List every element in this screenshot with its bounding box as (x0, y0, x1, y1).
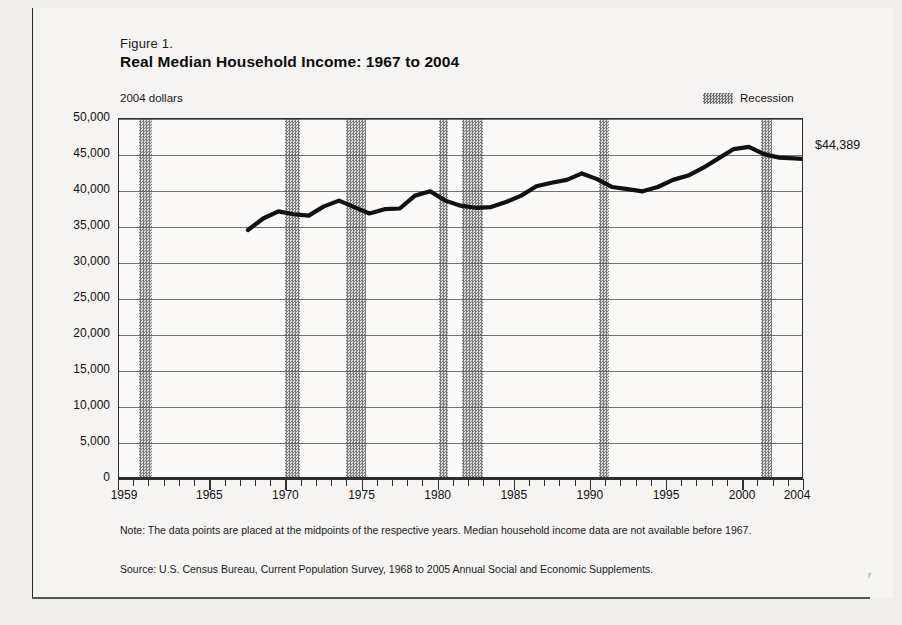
x-axis-tick-label: 1975 (348, 488, 375, 502)
y-axis-tick-label: 35,000 (48, 218, 110, 232)
x-axis-minor-tick (392, 479, 393, 486)
x-axis-tick-label: 1959 (111, 488, 138, 502)
x-axis-tick-label: 1990 (577, 488, 604, 502)
x-axis-minor-tick (559, 479, 560, 486)
y-axis-tick-label: 30,000 (48, 254, 110, 268)
x-axis-minor-tick (681, 479, 682, 486)
x-axis-minor-tick (148, 479, 149, 486)
x-axis-minor-tick (696, 479, 697, 486)
y-axis-units-label: 2004 dollars (120, 92, 183, 104)
figure-label: Figure 1. (120, 36, 173, 51)
y-axis-tick-label: 10,000 (48, 398, 110, 412)
y-axis-tick-label: 50,000 (48, 110, 110, 124)
x-axis-minor-tick (407, 479, 408, 486)
x-axis-minor-tick (377, 479, 378, 486)
x-axis-minor-tick (255, 479, 256, 486)
y-axis-tick-label: 15,000 (48, 362, 110, 376)
legend-swatch-recession (703, 93, 733, 104)
x-axis-minor-tick (331, 479, 332, 486)
x-axis-minor-tick (605, 479, 606, 486)
x-axis-minor-tick (133, 479, 134, 486)
x-axis-minor-tick (727, 479, 728, 486)
x-axis-minor-tick (346, 479, 347, 486)
y-axis-tick-label: 45,000 (48, 146, 110, 160)
figure-bottom-rule (32, 597, 870, 599)
x-axis-minor-tick (712, 479, 713, 486)
x-axis-tick-label: 1965 (196, 488, 223, 502)
x-axis-minor-tick (499, 479, 500, 486)
y-axis-tick-label: 0 (48, 470, 110, 484)
y-axis-tick-label: 25,000 (48, 290, 110, 304)
x-axis-minor-tick (773, 479, 774, 486)
page-title: Real Median Household Income: 1967 to 20… (120, 53, 459, 71)
x-axis-minor-tick (468, 479, 469, 486)
x-axis-line (118, 478, 803, 480)
x-axis-minor-tick (620, 479, 621, 486)
x-axis-minor-tick (316, 479, 317, 486)
x-axis-tick-label: 2000 (729, 488, 756, 502)
x-axis-minor-tick (240, 479, 241, 486)
x-axis-tick-label: 1995 (653, 488, 680, 502)
scan-speck: r (868, 570, 871, 580)
x-axis-minor-tick (164, 479, 165, 486)
x-axis-minor-tick (529, 479, 530, 486)
figure-source: Source: U.S. Census Bureau, Current Popu… (120, 562, 840, 576)
x-axis-minor-tick (544, 479, 545, 486)
x-axis-minor-tick (194, 479, 195, 486)
chart-plot-area (118, 118, 803, 478)
x-axis-minor-tick (179, 479, 180, 486)
x-axis-minor-tick (788, 479, 789, 486)
x-axis-tick-label: 1985 (500, 488, 527, 502)
y-axis-tick-label: 20,000 (48, 326, 110, 340)
legend: Recession (703, 92, 794, 104)
x-axis-minor-tick (453, 479, 454, 486)
x-axis-minor-tick (301, 479, 302, 486)
figure-note: Note: The data points are placed at the … (120, 523, 820, 537)
y-axis-tick-label: 5,000 (48, 434, 110, 448)
end-value-callout: $44,389 (815, 138, 860, 152)
y-axis-tick-label: 40,000 (48, 182, 110, 196)
x-axis-minor-tick (636, 479, 637, 486)
x-axis-minor-tick (757, 479, 758, 486)
x-axis-minor-tick (575, 479, 576, 486)
x-axis-tick-label: 2004 (784, 488, 811, 502)
x-axis-minor-tick (483, 479, 484, 486)
x-axis-tick-label: 1980 (424, 488, 451, 502)
x-axis-minor-tick (270, 479, 271, 486)
x-axis-tick-label: 1970 (272, 488, 299, 502)
x-axis-minor-tick (225, 479, 226, 486)
x-axis-minor-tick (651, 479, 652, 486)
x-axis-minor-tick (422, 479, 423, 486)
legend-label-recession: Recession (740, 92, 794, 104)
income-line-series (119, 119, 802, 477)
